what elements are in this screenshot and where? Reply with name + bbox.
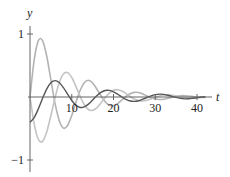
x-tick-label: 10 [66, 101, 78, 115]
x-axis-label: t [216, 90, 220, 104]
x-tick-label: 20 [108, 101, 120, 115]
x-tick-label: 30 [149, 101, 161, 115]
y-tick-label: −1 [11, 153, 24, 167]
series-layer [30, 38, 205, 142]
y-tick-label: 1 [18, 27, 24, 41]
y-axis-label: y [26, 6, 33, 20]
chart: 102030401−1 y t [0, 0, 230, 177]
x-tick-label: 40 [191, 101, 203, 115]
